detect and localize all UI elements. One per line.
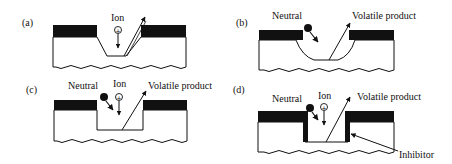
neutral-icon	[304, 24, 312, 32]
substrate-b	[259, 40, 394, 72]
svg-text:+: +	[116, 94, 121, 101]
ion-label-c: Ion	[113, 78, 126, 89]
panel-c: (c) Neutral Ion + Volatile product	[26, 78, 212, 143]
panel-b: (b) Neutral Volatile product	[236, 10, 416, 72]
mask-right-a	[141, 25, 186, 37]
substrate-a	[53, 37, 186, 69]
svg-text:+: +	[321, 104, 326, 111]
volatile-arrow-c	[122, 91, 146, 130]
mask-left-d	[258, 111, 305, 122]
neutral-icon	[100, 93, 108, 101]
panel-b-label: (b)	[236, 17, 248, 29]
substrate-d	[258, 122, 394, 154]
ion-icon: +	[115, 27, 122, 34]
mask-left-b	[259, 30, 303, 40]
mask-left-c	[54, 100, 97, 110]
neutral-arrow-b	[310, 32, 318, 42]
panel-d: (d) Neutral Ion + Volatile product Inhib…	[233, 84, 435, 160]
substrate-c	[54, 110, 187, 143]
neutral-icon	[306, 104, 314, 112]
neutral-arrow-c	[106, 101, 113, 110]
inhibitor-right-wall	[345, 111, 350, 142]
ion-icon: +	[116, 94, 123, 101]
mask-right-c	[143, 100, 187, 110]
mask-right-b	[349, 30, 394, 40]
ion-label-a: Ion	[111, 12, 124, 23]
volatile-label-c: Volatile product	[148, 80, 212, 91]
panel-d-label: (d)	[233, 84, 245, 96]
mask-right-d	[348, 111, 394, 122]
ion-label-d: Ion	[318, 90, 331, 101]
neutral-arrow-d	[312, 112, 318, 120]
volatile-label-d: Volatile product	[357, 91, 421, 102]
inhibitor-left-wall	[303, 111, 308, 142]
panel-a: (a) Ion +	[22, 12, 186, 69]
inhibitor-label: Inhibitor	[399, 149, 435, 160]
mask-left-a	[53, 25, 97, 37]
neutral-label-b: Neutral	[272, 10, 302, 21]
svg-text:+: +	[115, 27, 120, 34]
etching-mechanisms-diagram: (a) Ion + (b) Neutral Volatile product (…	[0, 0, 452, 164]
panel-a-label: (a)	[22, 17, 33, 29]
panel-c-label: (c)	[26, 84, 37, 96]
ion-icon: +	[321, 104, 328, 111]
neutral-label-d: Neutral	[272, 93, 302, 104]
volatile-label-b: Volatile product	[352, 10, 416, 21]
neutral-label-c: Neutral	[68, 80, 98, 91]
